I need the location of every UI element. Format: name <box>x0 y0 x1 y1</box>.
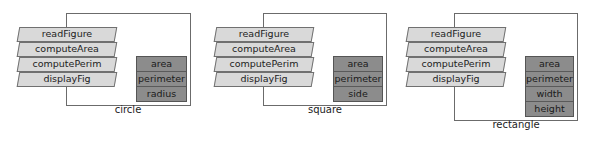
method-computearea: computeArea <box>407 42 505 57</box>
object-label: circle <box>100 104 156 115</box>
object-circle: readFigure computeArea computePerim disp… <box>0 0 200 143</box>
data-fields: area perimeter side <box>333 56 383 102</box>
method-list: readFigure computeArea computePerim disp… <box>18 27 116 87</box>
method-readfigure: readFigure <box>18 27 116 42</box>
field-perimeter: perimeter <box>526 72 573 87</box>
method-computeperim: computePerim <box>407 57 505 72</box>
field-area: area <box>137 57 186 72</box>
method-readfigure: readFigure <box>215 27 313 42</box>
field-perimeter: perimeter <box>137 72 186 87</box>
method-computearea: computeArea <box>215 42 313 57</box>
method-computearea: computeArea <box>18 42 116 57</box>
object-square: readFigure computeArea computePerim disp… <box>197 0 397 143</box>
data-fields: area perimeter width height <box>525 56 574 117</box>
field-radius: radius <box>137 87 186 101</box>
object-label: square <box>295 104 355 115</box>
object-rectangle: readFigure computeArea computePerim disp… <box>395 0 595 143</box>
method-list: readFigure computeArea computePerim disp… <box>407 27 505 87</box>
method-readfigure: readFigure <box>407 27 505 42</box>
field-area: area <box>334 57 382 72</box>
method-computeperim: computePerim <box>215 57 313 72</box>
method-computeperim: computePerim <box>18 57 116 72</box>
field-side: side <box>334 87 382 101</box>
method-displayfig: displayFig <box>18 72 116 87</box>
method-list: readFigure computeArea computePerim disp… <box>215 27 313 87</box>
field-perimeter: perimeter <box>334 72 382 87</box>
data-fields: area perimeter radius <box>136 56 187 102</box>
method-displayfig: displayFig <box>407 72 505 87</box>
field-height: height <box>526 102 573 116</box>
field-area: area <box>526 57 573 72</box>
field-width: width <box>526 87 573 102</box>
object-label: rectangle <box>483 119 549 130</box>
method-displayfig: displayFig <box>215 72 313 87</box>
